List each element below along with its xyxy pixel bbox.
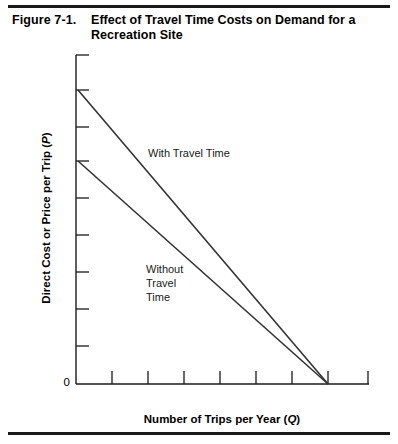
x-axis-ticks bbox=[112, 371, 368, 384]
bottom-rule bbox=[8, 432, 390, 435]
y-axis-title-suffix: ) bbox=[40, 132, 52, 136]
curve-without-travel-time bbox=[78, 161, 328, 384]
figure-panel: Figure 7-1. Effect of Travel Time Costs … bbox=[0, 0, 398, 444]
x-axis-title-suffix: ) bbox=[296, 413, 300, 425]
curve-label-without-travel-time: Without Travel Time bbox=[146, 262, 183, 304]
y-axis-title-prefix: Direct Cost or Price per Trip ( bbox=[40, 144, 52, 304]
x-axis-title-prefix: Number of Trips per Year ( bbox=[144, 413, 288, 425]
curve-label-with-travel-time: With Travel Time bbox=[148, 146, 230, 160]
origin-tick-label: 0 bbox=[54, 376, 70, 388]
chart-plot-area: Direct Cost or Price per Trip (P) Number… bbox=[0, 0, 398, 444]
y-axis-title-symbol: P bbox=[40, 136, 52, 144]
x-axis-title: Number of Trips per Year (Q) bbox=[76, 413, 368, 425]
y-axis-title: Direct Cost or Price per Trip (P) bbox=[40, 88, 52, 348]
y-axis-ticks bbox=[76, 55, 89, 346]
curve-with-travel-time bbox=[78, 90, 328, 384]
x-axis-title-symbol: Q bbox=[287, 413, 296, 425]
